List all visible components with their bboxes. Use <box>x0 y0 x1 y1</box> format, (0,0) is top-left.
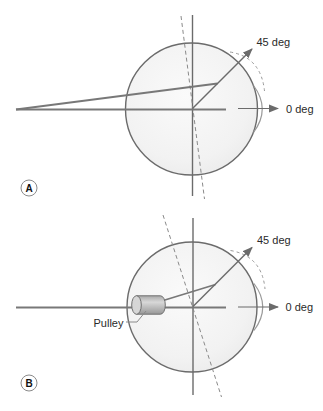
label-pulley: Pulley <box>94 317 124 329</box>
label-0deg-b: 0 deg <box>286 301 314 313</box>
label-45deg-a: 45 deg <box>257 36 291 48</box>
panel-badge-letter-a: A <box>25 183 32 194</box>
eye-pulley-figure: 45 deg 0 deg A Pulley 45 deg 0 deg <box>0 0 323 411</box>
panel-a: 45 deg 0 deg A <box>16 15 314 199</box>
pulley-left-cap <box>132 296 142 315</box>
label-0deg-a: 0 deg <box>286 103 314 115</box>
label-45deg-b: 45 deg <box>257 234 291 246</box>
panel-badge-letter-b: B <box>25 378 32 389</box>
figure-canvas: 45 deg 0 deg A Pulley 45 deg 0 deg <box>0 0 323 411</box>
panel-b: Pulley 45 deg 0 deg B <box>16 215 313 397</box>
pulley-cylinder <box>132 296 166 315</box>
